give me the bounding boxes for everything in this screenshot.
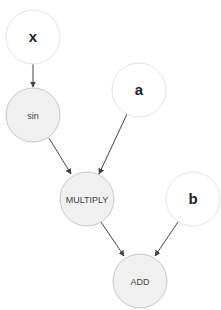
node-b[interactable]: b [166, 172, 220, 226]
node-x[interactable]: x [6, 10, 60, 64]
edge-b-add [155, 222, 178, 256]
node-multiply[interactable]: MULTIPLY [60, 172, 114, 226]
node-a-label: a [135, 81, 144, 98]
edge-a-multiply [99, 114, 127, 174]
computation-graph: x sin a MULTIPLY b ADD [0, 0, 221, 310]
node-x-label: x [29, 28, 38, 45]
node-sin[interactable]: sin [6, 88, 60, 142]
node-multiply-label: MULTIPLY [66, 195, 109, 205]
node-a[interactable]: a [112, 63, 166, 117]
node-add[interactable]: ADD [113, 254, 167, 308]
node-sin-label: sin [27, 111, 39, 121]
edge-sin-multiply [49, 138, 71, 174]
node-add-label: ADD [130, 277, 150, 287]
node-b-label: b [188, 190, 197, 207]
edge-multiply-add [101, 222, 124, 256]
